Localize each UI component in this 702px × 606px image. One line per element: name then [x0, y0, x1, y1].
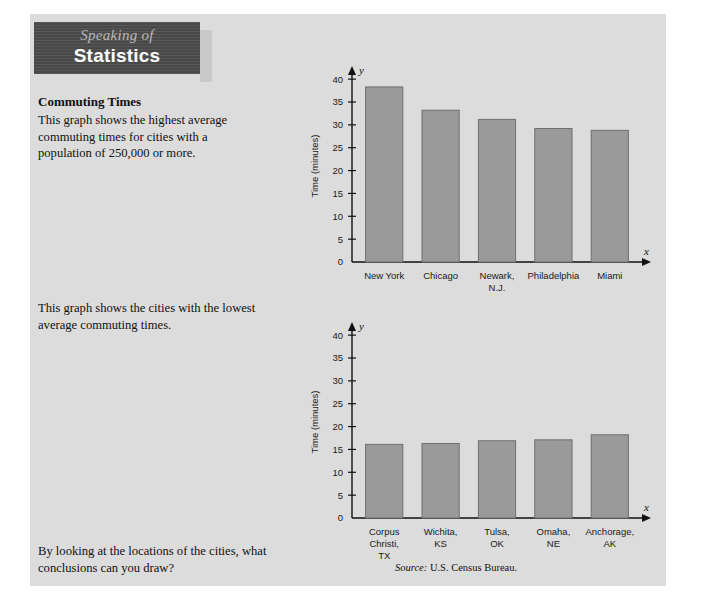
svg-text:KS: KS	[434, 538, 447, 549]
svg-text:Omaha,: Omaha,	[537, 526, 571, 537]
banner-line-speaking-of: Speaking of	[34, 27, 200, 44]
chart-highest-commuting-times: yx0510152025303540Time (minutes)New York…	[296, 56, 676, 296]
svg-text:Philadelphia: Philadelphia	[528, 270, 580, 281]
svg-text:Tulsa,: Tulsa,	[484, 526, 510, 537]
svg-text:New York: New York	[364, 270, 404, 281]
svg-text:35: 35	[332, 96, 343, 107]
banner-shadow	[200, 30, 212, 82]
svg-text:5: 5	[338, 234, 343, 245]
svg-text:40: 40	[332, 74, 343, 85]
page-root: Speaking of Statistics Commuting Times T…	[0, 0, 702, 606]
svg-text:15: 15	[332, 444, 343, 455]
article-question-paragraph: By looking at the locations of the citie…	[38, 543, 278, 576]
svg-text:y: y	[358, 64, 364, 76]
svg-text:30: 30	[332, 375, 343, 386]
svg-text:0: 0	[338, 512, 343, 523]
svg-text:Corpus: Corpus	[369, 526, 400, 537]
svg-text:y: y	[358, 320, 364, 332]
svg-text:Time (minutes): Time (minutes)	[309, 135, 320, 198]
svg-text:x: x	[643, 245, 649, 257]
speaking-of-statistics-banner: Speaking of Statistics	[34, 22, 200, 74]
svg-text:TX: TX	[378, 550, 391, 561]
chart-lowest-commuting-times: yx0510152025303540Time (minutes)CorpusCh…	[296, 312, 676, 574]
svg-text:NE: NE	[547, 538, 560, 549]
article-title: Commuting Times	[38, 94, 141, 110]
svg-text:0: 0	[338, 256, 343, 267]
svg-text:Christi,: Christi,	[369, 538, 399, 549]
article-middle-paragraph: This graph shows the cities with the low…	[38, 300, 262, 333]
svg-text:AK: AK	[603, 538, 616, 549]
svg-text:15: 15	[332, 188, 343, 199]
svg-text:40: 40	[332, 330, 343, 341]
svg-text:20: 20	[332, 421, 343, 432]
svg-text:10: 10	[332, 211, 343, 222]
svg-text:x: x	[643, 501, 649, 513]
banner-line-statistics: Statistics	[34, 45, 200, 67]
svg-text:35: 35	[332, 352, 343, 363]
svg-text:Miami: Miami	[597, 270, 622, 281]
svg-text:N.J.: N.J.	[489, 282, 506, 293]
svg-text:Newark,: Newark,	[480, 270, 515, 281]
svg-text:OK: OK	[490, 538, 504, 549]
svg-text:5: 5	[338, 490, 343, 501]
svg-text:Chicago: Chicago	[423, 270, 458, 281]
svg-text:Wichita,: Wichita,	[424, 526, 458, 537]
article-intro-paragraph: This graph shows the highest average com…	[38, 112, 262, 162]
svg-text:20: 20	[332, 165, 343, 176]
svg-text:30: 30	[332, 119, 343, 130]
svg-text:10: 10	[332, 467, 343, 478]
svg-text:25: 25	[332, 398, 343, 409]
svg-text:25: 25	[332, 142, 343, 153]
svg-text:Time (minutes): Time (minutes)	[309, 391, 320, 454]
svg-text:Anchorage,: Anchorage,	[586, 526, 635, 537]
